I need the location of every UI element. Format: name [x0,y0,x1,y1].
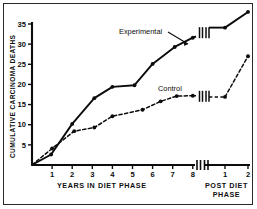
data-point [92,126,96,130]
x-tick-label-diet: 2 [70,170,74,179]
data-point [246,10,250,14]
x-tick-label-diet: 4 [110,170,115,179]
data-point [159,99,163,103]
x-tick-label-post: 1 [223,170,228,179]
experimental-label-leader-line [168,32,188,44]
data-point [246,54,250,58]
data-point [223,95,227,99]
x-tick-label-diet: 1 [50,170,55,179]
data-series [32,10,250,165]
series-line-control-post [225,56,248,97]
data-point [110,114,114,118]
data-point [72,129,76,133]
data-point [49,153,53,157]
y-tick-label: 5 [22,141,27,150]
x-tick-label-post: 2 [246,170,250,179]
data-point [133,83,137,87]
chart-figure: CUMULATIVE CARCINOMA DEATHS YEARS IN DIE… [0,0,257,209]
data-point [191,36,195,40]
y-tick-label: 35 [18,20,27,29]
data-point [173,45,177,49]
data-point [50,147,54,151]
data-point [70,122,74,126]
x-tick-label-diet: 7 [171,170,175,179]
plot-area: 51015202530351234567812 [0,0,257,209]
x-tick-label-diet: 5 [130,170,135,179]
data-point [141,108,145,112]
y-tick-label: 30 [18,40,26,49]
series-line-experimental-post [225,12,248,28]
y-tick-label: 20 [18,80,26,89]
series-line-control-diet [32,96,193,165]
data-point [110,85,114,89]
x-tick-label-diet: 3 [90,170,94,179]
data-point [191,94,195,98]
data-point [175,94,179,98]
data-point [223,26,227,30]
y-tick-label: 25 [18,60,27,69]
data-point [151,62,155,66]
x-tick-label-diet: 6 [150,170,154,179]
data-point [92,96,96,100]
y-tick-label: 15 [18,100,27,109]
y-tick-label: 10 [18,120,26,129]
x-tick-label-diet: 8 [191,170,195,179]
